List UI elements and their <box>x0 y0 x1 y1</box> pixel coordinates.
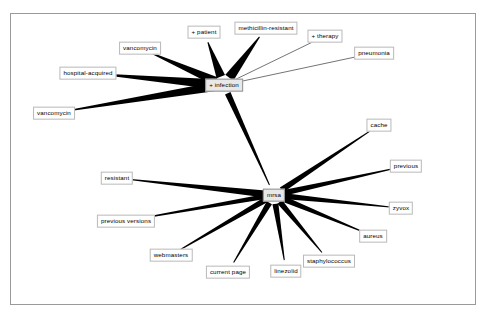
graph-node-previous[interactable]: previous <box>390 160 422 173</box>
node-layer: + infection+ patientmethicillin-resistan… <box>0 0 485 317</box>
graph-node-zyvox[interactable]: zyvox <box>389 202 413 215</box>
graph-node-current-page[interactable]: current page <box>206 266 250 279</box>
graph-node-linezolid[interactable]: linezolid <box>270 265 301 278</box>
graph-node-staphylococcus[interactable]: staphylococcus <box>303 255 355 268</box>
graph-node-vancomycin-top[interactable]: vancomycin <box>119 42 161 55</box>
graph-node-methicillin-resistant[interactable]: methicillin-resistant <box>234 22 297 35</box>
graph-node-resistant[interactable]: resistant <box>101 172 133 185</box>
graph-node-mrsa[interactable]: mrsa <box>263 189 285 202</box>
figure-canvas: + infection+ patientmethicillin-resistan… <box>0 0 485 317</box>
graph-node-cache[interactable]: cache <box>366 119 391 132</box>
graph-node-infection[interactable]: + infection <box>205 79 243 92</box>
graph-node-patient[interactable]: + patient <box>188 26 221 39</box>
graph-node-vancomycin-left[interactable]: vancomycin <box>33 107 75 120</box>
graph-node-webmasters[interactable]: webmasters <box>150 249 193 262</box>
graph-node-pneumonia[interactable]: pneumonia <box>354 47 394 60</box>
graph-node-therapy[interactable]: + therapy <box>307 30 342 43</box>
graph-node-previous-versions[interactable]: previous versions <box>97 215 155 228</box>
graph-node-hospital-acquired[interactable]: hospital-acquired <box>59 67 116 80</box>
graph-node-aureus[interactable]: aureus <box>359 230 387 243</box>
